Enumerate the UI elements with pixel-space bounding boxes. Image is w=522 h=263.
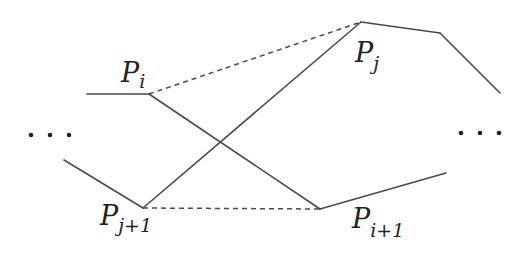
edge-pj1-to-pj — [143, 22, 361, 208]
label-p-i: Pi — [120, 57, 145, 92]
polygon-crossing-diagram: Pi Pj Pj+1 Pi+1 — [0, 0, 522, 263]
label-p-j: Pj — [354, 37, 379, 74]
ellipsis-dot — [48, 133, 53, 138]
ellipsis-dot — [67, 133, 72, 138]
ellipsis-right — [459, 131, 502, 136]
edge-right-down — [440, 33, 500, 93]
edge-pi1-right — [320, 173, 446, 209]
dashed-edge-pj1-pi1 — [143, 208, 320, 209]
ellipsis-dot — [459, 131, 464, 136]
ellipsis-left — [29, 133, 72, 138]
label-p-i-plus-1: Pi+1 — [351, 203, 404, 241]
label-p-j-plus-1: Pj+1 — [99, 200, 152, 236]
ellipsis-dot — [497, 131, 502, 136]
dashed-edge-pi-pj — [149, 22, 361, 94]
edge-pj-right — [361, 22, 440, 33]
edge-pi-to-pi1 — [149, 94, 320, 209]
ellipsis-dot — [29, 133, 34, 138]
ellipsis-dot — [478, 131, 483, 136]
